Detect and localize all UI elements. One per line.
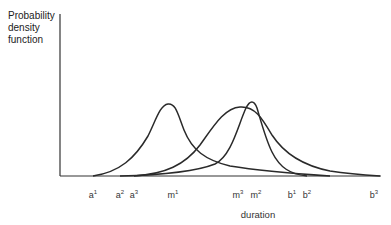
y-axis-label: Probability density function	[8, 10, 55, 46]
y-axis-label-line-3: function	[8, 34, 55, 46]
tick-m3: m3	[233, 190, 244, 200]
curve-distribution-3	[134, 107, 380, 176]
tick-m1: m1	[168, 190, 179, 200]
curve-distribution-2	[120, 102, 307, 176]
y-axis-label-line-1: Probability	[8, 10, 55, 22]
tick-b2: b2	[303, 190, 311, 200]
tick-a1: a1	[89, 190, 97, 200]
x-axis-label: duration	[241, 209, 275, 220]
pdf-diagram	[0, 0, 391, 225]
tick-a3: a3	[130, 190, 138, 200]
tick-b1: b1	[288, 190, 296, 200]
y-axis-label-line-2: density	[8, 22, 55, 34]
tick-b3: b3	[370, 190, 378, 200]
tick-m2: m2	[251, 190, 262, 200]
tick-a2: a2	[116, 190, 124, 200]
